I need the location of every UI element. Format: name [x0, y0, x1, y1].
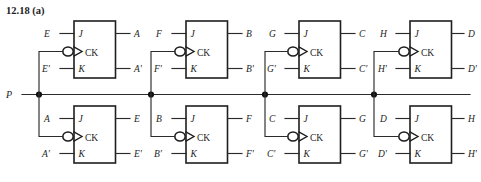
flipflop-top-3-q-output-label: C: [359, 29, 366, 39]
flipflop-bottom-3-k-input-label: C': [267, 149, 276, 159]
flipflop-bottom-2-q-output-label: F: [245, 114, 252, 124]
flipflop-top-1-qbar-output-label: A': [133, 64, 143, 74]
clock-bus: P: [5, 89, 470, 100]
flipflop-top-2: J K CK F F' B B': [151, 21, 255, 95]
figure-12-18a: 12.18 (a) P J K CK E E' A A': [0, 0, 481, 182]
flipflop-top-4-j-input-label: H: [379, 29, 388, 39]
flipflop-bottom-4-qbar-output-label: H': [467, 149, 478, 159]
flipflop-top-3-k-pin: K: [303, 64, 311, 74]
flipflop-bottom-3-qbar-output-label: G': [359, 149, 369, 159]
flipflop-bottom-2-ck-label: CK: [197, 133, 210, 143]
flipflop-top-4-ck-label: CK: [421, 48, 434, 58]
flipflop-top-4: J K CK H H' D D': [374, 21, 478, 95]
flipflop-bottom-3-k-pin: K: [303, 149, 311, 159]
flipflop-top-1-k-input-label: E': [41, 64, 51, 74]
flipflop-top-1-q-output-label: A: [133, 29, 140, 39]
flipflop-top-3-ck-label: CK: [310, 48, 323, 58]
flipflop-bottom-1-clock-wire: [39, 95, 63, 137]
flipflop-top-1-k-pin: K: [78, 64, 86, 74]
flipflop-bottom-1-k-input-label: A': [41, 149, 51, 159]
flipflop-top-4-q-output-label: D: [467, 29, 475, 39]
flipflop-top-3: J K CK G G' C C': [265, 21, 368, 95]
flipflop-top-1-j-input-label: E: [43, 29, 50, 39]
flipflop-bottom-4-inversion-bubble-icon: [399, 132, 409, 141]
flipflop-top-4-inversion-bubble-icon: [399, 47, 409, 56]
flipflop-bottom-1-k-pin: K: [78, 149, 86, 159]
flipflop-bottom-2-j-input-label: B: [156, 114, 162, 124]
flipflop-bottom-3-j-input-label: C: [269, 114, 276, 124]
flipflop-bottom-1-qbar-output-label: E': [133, 149, 143, 159]
flipflop-top-4-k-input-label: H': [377, 64, 388, 74]
flipflop-top-1-ck-label: CK: [85, 48, 98, 58]
flipflop-top-1: J K CK E E' A A': [39, 21, 143, 95]
flipflop-bottom-4-q-output-label: H: [467, 114, 476, 124]
flipflop-top-4-qbar-output-label: D': [467, 64, 478, 74]
flipflop-top-3-j-input-label: G: [269, 29, 276, 39]
flipflop-top-3-qbar-output-label: C': [359, 64, 368, 74]
flipflop-bottom-4: J K CK D D' H H': [374, 95, 478, 164]
flipflop-top-2-q-output-label: B: [246, 29, 252, 39]
flipflop-bottom-3-inversion-bubble-icon: [288, 132, 298, 141]
flipflop-bottom-4-k-input-label: D': [377, 149, 388, 159]
flipflop-top-2-j-input-label: F: [155, 29, 162, 39]
flipflop-bottom-3-ck-label: CK: [310, 133, 323, 143]
flipflop-top-2-k-input-label: F': [153, 64, 163, 74]
flipflop-bottom-3: J K CK C C' G G': [265, 95, 369, 164]
flipflop-top-2-ck-label: CK: [197, 48, 210, 58]
flipflop-bottom-2-clock-wire: [151, 95, 175, 137]
flipflop-top-3-inversion-bubble-icon: [288, 47, 298, 56]
flipflop-bottom-4-j-input-label: D: [379, 114, 387, 124]
flipflop-top-2-qbar-output-label: B': [246, 64, 255, 74]
figure-caption: 12.18 (a): [6, 5, 45, 17]
flipflop-bottom-3-q-output-label: G: [359, 114, 366, 124]
flipflop-top-3-k-input-label: G': [267, 64, 277, 74]
flipflop-top-2-k-pin: K: [190, 64, 198, 74]
flipflop-bottom-2: J K CK B B' F F': [151, 95, 255, 164]
flipflop-bottom-2-k-input-label: B': [154, 149, 163, 159]
flipflop-bottom-2-qbar-output-label: F': [245, 149, 255, 159]
flipflop-bottom-1-q-output-label: E: [133, 114, 140, 124]
flipflop-bottom-1: J K CK A A' E E': [39, 95, 143, 164]
clock-bus-label: P: [5, 89, 12, 100]
flipflop-bottom-1-inversion-bubble-icon: [63, 132, 73, 141]
flipflop-bottom-1-ck-label: CK: [85, 133, 98, 143]
flipflop-top-4-k-pin: K: [414, 64, 422, 74]
flipflop-bottom-4-k-pin: K: [414, 149, 422, 159]
flipflop-top-1-inversion-bubble-icon: [63, 47, 73, 56]
flipflop-bottom-4-ck-label: CK: [421, 133, 434, 143]
flipflop-bottom-2-inversion-bubble-icon: [175, 132, 185, 141]
flipflop-bottom-1-j-input-label: A: [43, 114, 50, 124]
flipflop-top-2-inversion-bubble-icon: [175, 47, 185, 56]
flipflop-bottom-2-k-pin: K: [190, 149, 198, 159]
